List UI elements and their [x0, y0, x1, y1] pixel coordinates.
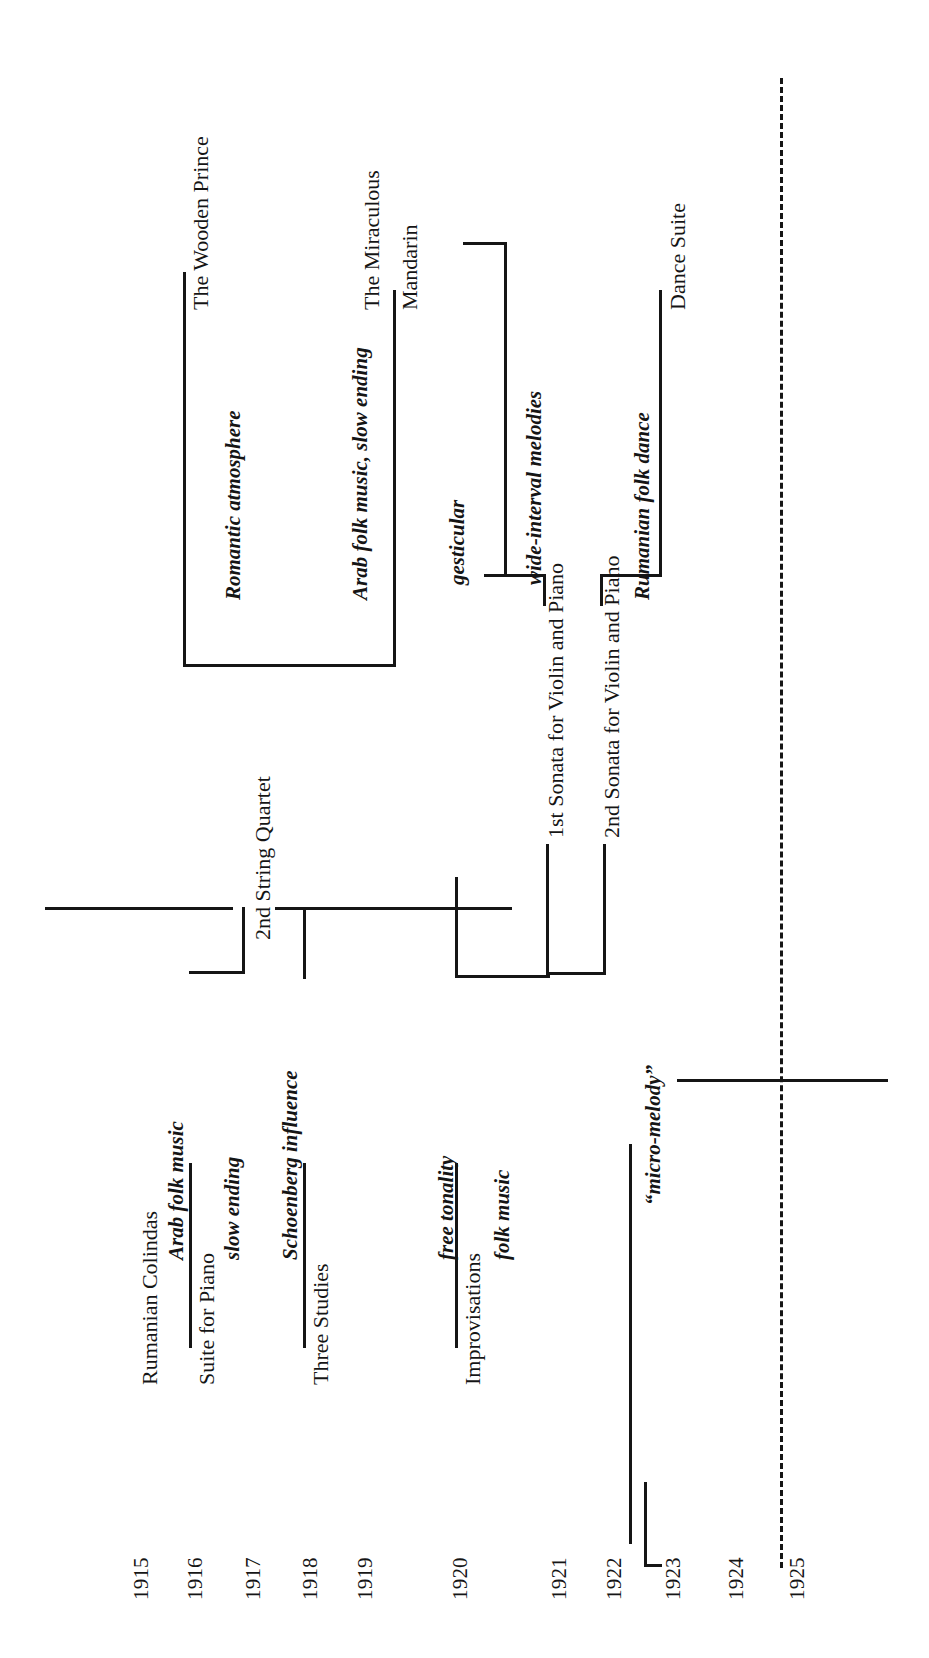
work-label-1st-sonata: 1st Sonata for Violin and Piano	[545, 563, 567, 838]
bracket-gesticular-top	[463, 242, 507, 245]
stem-suite-for-piano	[189, 1163, 192, 1348]
bracket-dance-suite-stem	[659, 290, 662, 577]
dashed-boundary-1925	[780, 78, 783, 1568]
year-label-1915: 1915	[131, 1557, 152, 1600]
annotation-free-tonality: free tonality	[436, 1156, 457, 1260]
year-label-1924: 1924	[726, 1557, 747, 1600]
bracket-quartet-crossbar	[189, 971, 245, 974]
bracket-prince-mandarin-crossbar	[183, 664, 396, 667]
work-label-rumanian-colindas: Rumanian Colindas	[139, 1211, 161, 1385]
year-label-1921: 1921	[549, 1557, 570, 1600]
annotation-romantic-atmosphere: Romantic atmosphere	[223, 410, 244, 600]
annotation-arab-folk-music-slow-ending: Arab folk music, slow ending	[350, 347, 371, 600]
annotation-wide-interval-melodies: wide-interval melodies	[524, 391, 545, 585]
stem-three-studies	[303, 1163, 306, 1348]
year-label-1922: 1922	[604, 1557, 625, 1600]
work-label-dance-suite: Dance Suite	[667, 203, 689, 310]
work-label-three-studies: Three Studies	[310, 1263, 332, 1385]
annotation-gesticular: gesticular	[447, 500, 468, 585]
bracket-miraculous-mandarin-stem	[393, 290, 396, 667]
stem-2nd-sonata	[603, 844, 606, 974]
bracket-2nd-sonata-riser	[600, 574, 603, 606]
bracket-1923-hook	[644, 1564, 662, 1567]
bracket-1st-sonata-drop	[543, 574, 546, 606]
year-label-1918: 1918	[300, 1557, 321, 1600]
year-label-1919: 1919	[355, 1557, 376, 1600]
bracket-improvisations-crossbar	[455, 975, 550, 978]
year-label-1925: 1925	[787, 1557, 808, 1600]
work-label-the-miraculous: The Miraculous	[361, 170, 383, 310]
stem-1st-sonata	[546, 844, 549, 974]
year-label-1917: 1917	[243, 1557, 264, 1600]
bracket-wide-interval-crossbar	[484, 574, 546, 577]
work-label-2nd-sonata: 2nd Sonata for Violin and Piano	[601, 556, 623, 838]
work-label-mandarin: Mandarin	[399, 224, 421, 310]
annotation-micro-melody: “micro-melody”	[643, 1065, 664, 1205]
axis-segment-right	[275, 907, 512, 910]
annotation-rumanian-folk-dance: Rumanian folk dance	[632, 412, 653, 600]
bracket-improvisations-riser	[303, 907, 306, 979]
work-label-suite-for-piano: Suite for Piano	[196, 1253, 218, 1385]
year-label-1923: 1923	[663, 1557, 684, 1600]
year-label-1916: 1916	[185, 1557, 206, 1600]
stem-improvisations	[455, 1163, 458, 1348]
axis-segment-left	[45, 907, 233, 910]
year-label-1920: 1920	[450, 1557, 471, 1600]
bracket-quartet-stem	[242, 907, 245, 974]
bracket-wooden-prince-stem	[183, 272, 186, 667]
work-label-the-wooden-prince: The Wooden Prince	[190, 136, 212, 310]
annotation-schoenberg-influence: Schoenberg influence	[280, 1070, 301, 1260]
bracket-gesticular-stem	[504, 242, 507, 576]
annotation-arab-folk-music: Arab folk music	[166, 1121, 187, 1260]
annotation-slow-ending: slow ending	[222, 1157, 243, 1260]
bracket-improvisations-folk-riser	[455, 877, 458, 977]
bracket-1923-vertical	[644, 1482, 647, 1567]
timeline-diagram: 1915 1916 1917 1918 1919 1920 1921 1922 …	[0, 0, 929, 1658]
annotation-folk-music: folk music	[492, 1170, 513, 1260]
work-label-improvisations: Improvisations	[462, 1253, 484, 1385]
stem-dance-suite-lower	[629, 1144, 632, 1544]
work-label-2nd-string-quartet: 2nd String Quartet	[252, 776, 274, 940]
bracket-sonatas-crossbar	[546, 972, 606, 975]
bracket-rumanian-folk-dance-crossbar	[600, 574, 662, 577]
